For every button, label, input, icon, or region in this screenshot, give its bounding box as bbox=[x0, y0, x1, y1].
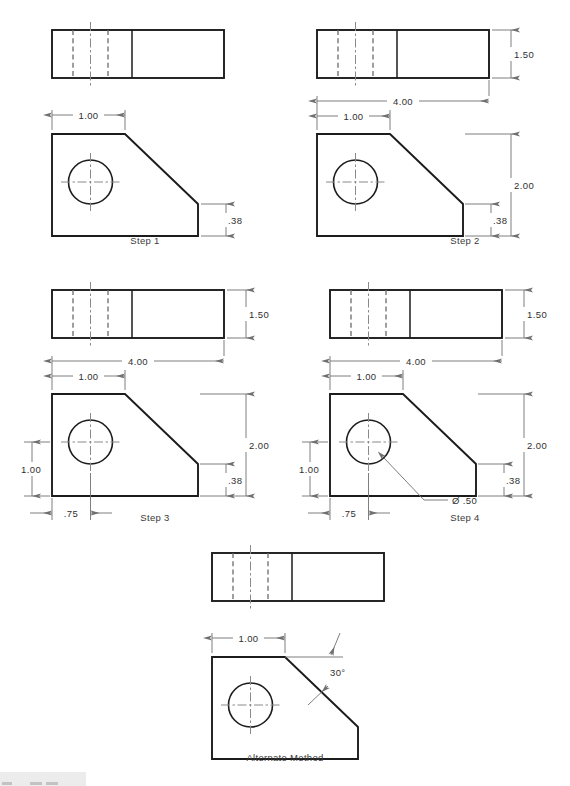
dim-label-1-00-width: 1.00 bbox=[78, 371, 98, 382]
step2-front-view bbox=[317, 134, 463, 236]
dim-1-00-hole-height: 1.00 bbox=[297, 442, 328, 496]
panel-step-1: 1.00 .38 bbox=[40, 22, 290, 252]
caption-step-3: Step 3 bbox=[110, 512, 200, 523]
dim-1-00: 1.00 bbox=[212, 631, 285, 653]
dim-label-38: .38 bbox=[493, 215, 507, 226]
dim-label-1-00: 1.00 bbox=[238, 633, 258, 644]
dim-label-4-00: 4.00 bbox=[406, 356, 426, 367]
dim-label-4-00: 4.00 bbox=[393, 96, 413, 107]
caption-alternate-method: Alternate Method bbox=[215, 752, 355, 763]
dim-38: .38 bbox=[200, 464, 242, 496]
dim-1-50: 1.50 bbox=[227, 290, 269, 338]
dim-label-4-00: 4.00 bbox=[128, 356, 148, 367]
front-view-profile bbox=[52, 394, 198, 496]
dim-38: .38 bbox=[478, 464, 520, 496]
panel-step-3: 1.50 4.00 1.00 bbox=[18, 282, 298, 507]
dim-1-50: 1.50 bbox=[492, 30, 534, 78]
dim-1-00: 1.00 bbox=[52, 108, 125, 130]
dim-1-00-width: 1.00 bbox=[52, 369, 125, 390]
dim-label-hole-diameter: Ø .50 bbox=[452, 495, 477, 506]
panel-step-2: 1.50 4.00 1.00 bbox=[305, 22, 565, 252]
dim-label-2-00: 2.00 bbox=[527, 440, 547, 451]
dim-label-1-00-hole-height: 1.00 bbox=[299, 464, 319, 475]
dim-label-75: .75 bbox=[64, 508, 78, 519]
caption-step-2: Step 2 bbox=[420, 235, 510, 246]
dim-1-00-hole-height: 1.00 bbox=[19, 442, 50, 496]
dim-label-75: .75 bbox=[342, 508, 356, 519]
step2-top-view bbox=[317, 22, 489, 86]
dim-label-2-00: 2.00 bbox=[514, 180, 534, 191]
annotation-bevel-angle: 30° bbox=[285, 633, 346, 705]
dim-1-00-width: 1.00 bbox=[330, 369, 403, 390]
panel-step-4: 1.50 4.00 1.00 bbox=[296, 282, 570, 507]
step3-front-view bbox=[52, 394, 198, 496]
dim-label-30-deg: 30° bbox=[330, 667, 346, 678]
dim-label-38: .38 bbox=[506, 475, 520, 486]
drawing-sheet: 1.00 .38 Step 1 bbox=[0, 0, 570, 786]
step3-top-view bbox=[52, 282, 224, 346]
step1-top-view bbox=[52, 22, 224, 86]
dim-label-38: .38 bbox=[228, 475, 242, 486]
dim-label-1-50: 1.50 bbox=[249, 309, 269, 320]
dim-label-1-00: 1.00 bbox=[78, 110, 98, 121]
panel-alternate-method: 1.00 30° bbox=[200, 545, 430, 750]
dim-1-50: 1.50 bbox=[505, 290, 547, 338]
front-view-profile bbox=[317, 134, 463, 236]
page-footer-mark bbox=[0, 772, 86, 786]
dim-38: .38 bbox=[465, 204, 507, 236]
dim-label-1-50: 1.50 bbox=[527, 309, 547, 320]
front-view-profile bbox=[52, 134, 198, 236]
dim-label-1-00-hole-height: 1.00 bbox=[21, 464, 41, 475]
dim-1-00: 1.00 bbox=[317, 109, 390, 130]
step4-top-view bbox=[330, 282, 502, 346]
caption-step-4: Step 4 bbox=[420, 512, 510, 523]
step4-front-view bbox=[330, 394, 476, 496]
dim-label-1-50: 1.50 bbox=[514, 49, 534, 60]
front-view-profile bbox=[330, 394, 476, 496]
dim-label-1-00-width: 1.00 bbox=[356, 371, 376, 382]
alt-top-view bbox=[212, 545, 384, 609]
callout-hole-diameter: Ø .50 bbox=[384, 458, 477, 506]
step1-front-view bbox=[52, 134, 198, 236]
dim-label-2-00: 2.00 bbox=[249, 440, 269, 451]
dim-label-1-00: 1.00 bbox=[343, 111, 363, 122]
dim-38: .38 bbox=[201, 204, 242, 236]
dim-label-38: .38 bbox=[228, 215, 242, 226]
caption-step-1: Step 1 bbox=[100, 235, 190, 246]
